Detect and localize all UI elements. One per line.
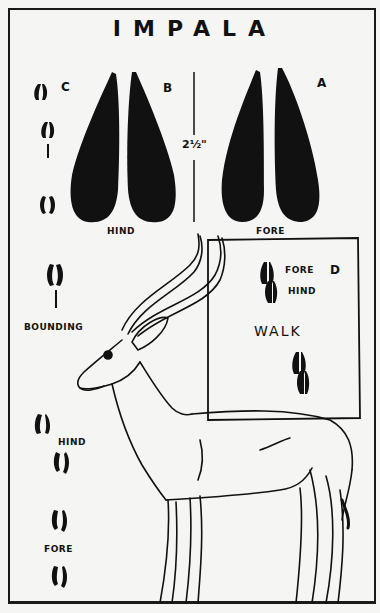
gait-c-tracks xyxy=(34,84,55,214)
fore-print-large xyxy=(222,68,320,222)
gait-c-letter: C xyxy=(61,80,70,94)
lower-fore-label: FORE xyxy=(44,544,73,554)
bounding-track xyxy=(47,264,63,308)
walk-fore-label: FORE xyxy=(285,265,314,275)
walk-tracks-bottom xyxy=(292,352,309,394)
fore-print-label: FORE xyxy=(256,226,285,236)
hind-print-label: HIND xyxy=(107,226,135,236)
fore-print-letter: A xyxy=(317,76,326,90)
illustration-artwork xyxy=(0,0,380,613)
horn-left xyxy=(122,234,199,330)
walk-hind-label: HIND xyxy=(288,286,316,296)
lower-hind-label: HIND xyxy=(58,437,86,447)
measurement-label: 2½" xyxy=(182,138,207,151)
illustration-page: IMPALA xyxy=(0,0,380,613)
walk-box-letter: D xyxy=(330,263,340,277)
bounding-label: BOUNDING xyxy=(24,322,83,332)
walk-label: WALK xyxy=(254,323,302,339)
hind-print-large xyxy=(71,72,176,222)
hind-print-letter: B xyxy=(163,81,172,95)
walk-tracks-top xyxy=(260,262,277,303)
